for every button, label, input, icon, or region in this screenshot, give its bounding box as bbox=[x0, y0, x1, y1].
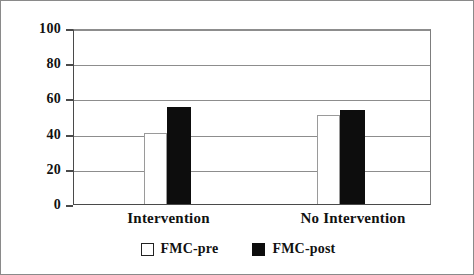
y-axis-tick-label: 80 bbox=[19, 57, 61, 71]
x-axis-category-label-intervention: Intervention bbox=[106, 210, 231, 227]
gridline-40 bbox=[74, 136, 430, 137]
y-axis-tick-mark bbox=[66, 99, 73, 101]
chart-legend: FMC-pre FMC-post bbox=[1, 241, 474, 257]
gridline-60 bbox=[74, 100, 430, 101]
y-axis-tick-mark bbox=[66, 205, 73, 207]
bar-intervention-fmc-post bbox=[167, 107, 191, 204]
y-axis-tick-mark bbox=[66, 135, 73, 137]
bar-chart-figure: 100 80 60 40 20 0 Intervention No Interv… bbox=[0, 0, 474, 275]
y-axis-tick-label: 60 bbox=[19, 92, 61, 106]
gridline-100 bbox=[74, 30, 430, 31]
bar-intervention-fmc-pre bbox=[144, 133, 167, 204]
legend-item-fmc-post: FMC-post bbox=[252, 241, 335, 257]
y-axis-tick-label: 0 bbox=[19, 198, 61, 212]
legend-label: FMC-pre bbox=[161, 241, 219, 257]
y-axis-tick-mark bbox=[66, 29, 73, 31]
plot-area bbox=[73, 29, 431, 205]
y-axis-tick-label: 40 bbox=[19, 128, 61, 142]
bar-no-intervention-fmc-post bbox=[340, 110, 365, 204]
gridline-20 bbox=[74, 171, 430, 172]
gridline-80 bbox=[74, 65, 430, 66]
legend-item-fmc-pre: FMC-pre bbox=[141, 241, 219, 257]
open-square-swatch-icon bbox=[141, 243, 154, 256]
legend-label: FMC-post bbox=[272, 241, 335, 257]
y-axis-tick-label: 100 bbox=[19, 22, 61, 36]
filled-square-swatch-icon bbox=[252, 243, 265, 256]
x-axis-category-label-no-intervention: No Intervention bbox=[273, 210, 433, 227]
y-axis-tick-mark bbox=[66, 64, 73, 66]
bar-no-intervention-fmc-pre bbox=[317, 115, 340, 204]
y-axis-tick-mark bbox=[66, 170, 73, 172]
y-axis-tick-label: 20 bbox=[19, 163, 61, 177]
